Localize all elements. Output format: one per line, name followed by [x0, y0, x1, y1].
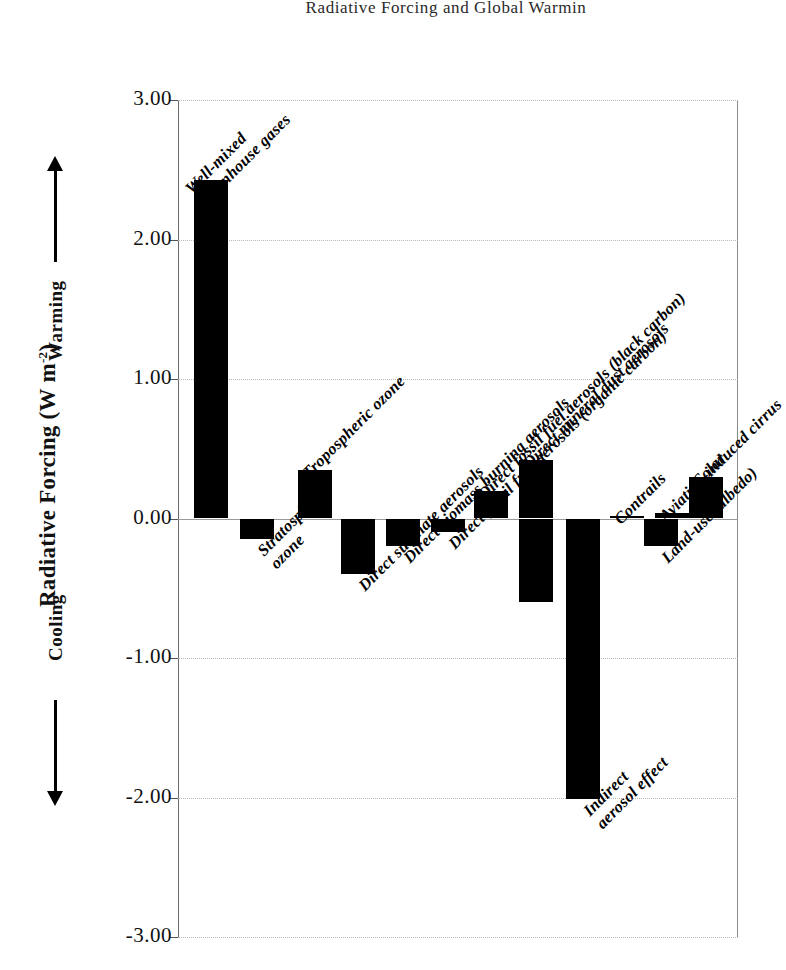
y-tick-label: 2.00	[80, 226, 172, 251]
warming-label: Warming	[45, 321, 67, 361]
y-tick-label: -2.00	[80, 784, 172, 809]
y-tick-label: -1.00	[80, 644, 172, 669]
cooling-annotation: Cooling	[36, 630, 76, 652]
gridline-2.00	[178, 240, 738, 241]
y-tick-label: 1.00	[80, 365, 172, 390]
gridline--2.00	[178, 798, 738, 799]
warming-annotation: Warming	[36, 330, 76, 352]
bar	[194, 180, 228, 519]
y-tick-label: -3.00	[80, 923, 172, 948]
gridline-3.00	[178, 100, 738, 101]
y-tick-label: 0.00	[80, 505, 172, 530]
gridline--1.00	[178, 658, 738, 659]
y-axis-title-main: Radiative Forcing (W m	[35, 363, 60, 607]
up-arrow-icon	[54, 170, 57, 262]
gridline-1.00	[178, 379, 738, 380]
cooling-label: Cooling	[45, 621, 67, 661]
gridline--3.00	[178, 937, 738, 938]
y-tick-label: 3.00	[80, 86, 172, 111]
bar	[519, 519, 553, 603]
bar	[566, 519, 600, 799]
down-arrow-icon	[54, 700, 57, 792]
